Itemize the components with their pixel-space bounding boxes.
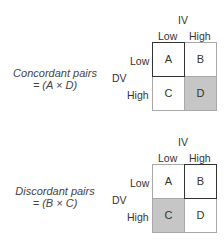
cell-b: B (184, 164, 217, 199)
col-label-high: High (189, 152, 211, 164)
concordant-caption: Concordant pairs = (A × D) (4, 67, 106, 91)
col-label-low: Low (158, 30, 177, 42)
cell-d: D (184, 76, 217, 111)
row-label-high: High (127, 211, 149, 223)
col-label-low: Low (158, 152, 177, 164)
contingency-grid: A B C D (152, 164, 218, 233)
contingency-grid: A B C D (152, 42, 218, 111)
row-label-high: High (127, 89, 149, 101)
cell-d: D (184, 198, 217, 233)
iv-label: IV (178, 136, 188, 148)
caption-formula: = (A × D) (4, 79, 106, 91)
cell-b: B (184, 42, 217, 77)
concordant-panel: Concordant pairs = (A × D) IV Low High D… (0, 0, 224, 122)
dv-label: DV (112, 194, 127, 206)
discordant-caption: Discordant pairs = (B × C) (4, 185, 106, 209)
discordant-panel: Discordant pairs = (B × C) IV Low High D… (0, 122, 224, 244)
cell-c: C (152, 76, 185, 111)
caption-title: Discordant pairs (4, 185, 106, 197)
cell-a: A (152, 42, 185, 77)
col-label-high: High (189, 30, 211, 42)
dv-label: DV (112, 72, 127, 84)
caption-formula: = (B × C) (4, 197, 106, 209)
caption-title: Concordant pairs (4, 67, 106, 79)
cell-c: C (152, 198, 185, 233)
iv-label: IV (178, 14, 188, 26)
row-label-low: Low (130, 55, 149, 67)
cell-a: A (152, 164, 185, 199)
row-label-low: Low (130, 177, 149, 189)
